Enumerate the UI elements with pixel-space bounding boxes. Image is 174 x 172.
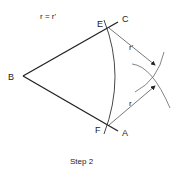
ray-ba bbox=[23, 76, 118, 131]
radius-label-lower: r bbox=[129, 99, 132, 108]
intersect-arc-lower bbox=[135, 52, 164, 92]
radius-arrow-lower bbox=[109, 86, 155, 125]
point-label-a: A bbox=[122, 128, 128, 138]
radius-label-upper: r' bbox=[129, 43, 134, 52]
angle-bisector-diagram: r = r' B E C F A r' r Step 2 bbox=[0, 0, 174, 172]
point-label-c: C bbox=[122, 14, 129, 24]
point-label-f: F bbox=[95, 125, 101, 135]
ray-bc bbox=[23, 22, 118, 76]
formula-label: r = r' bbox=[40, 12, 56, 21]
point-label-e: E bbox=[97, 19, 103, 29]
point-label-b: B bbox=[8, 72, 14, 82]
intersect-arc-upper bbox=[132, 64, 170, 108]
caption: Step 2 bbox=[70, 157, 94, 166]
main-arc bbox=[104, 20, 115, 134]
